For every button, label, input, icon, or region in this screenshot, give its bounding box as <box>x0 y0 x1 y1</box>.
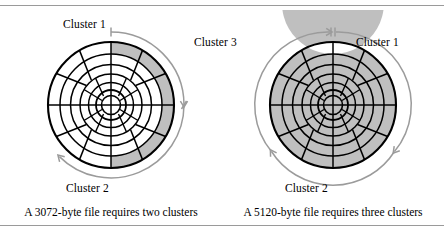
cluster-label-bottom-right-diagram: Cluster 2 <box>285 182 328 194</box>
cluster-label-bottom-left-diagram: Cluster 2 <box>66 182 109 194</box>
diagram-left: Cluster 1 Cluster 2 A 3072-byte file req… <box>0 10 222 222</box>
caption-left: A 3072-byte file requires two clusters <box>0 206 222 218</box>
figure-canvas: Cluster 1 Cluster 2 A 3072-byte file req… <box>0 0 444 234</box>
top-divider-rule <box>0 5 444 6</box>
cluster-label-top-right-right-diagram: Cluster 1 <box>356 36 399 48</box>
caption-right: A 5120-byte file requires three clusters <box>222 206 444 218</box>
disk-platter-left <box>0 10 222 210</box>
diagram-right: Cluster 3 Cluster 1 Cluster 2 A 5120-byt… <box>222 10 444 222</box>
disk-platter-right <box>222 10 444 210</box>
cluster-label-top-left-right-diagram: Cluster 3 <box>194 36 237 48</box>
cluster-label-top-left-diagram: Cluster 1 <box>63 18 106 30</box>
bottom-divider-rule <box>0 225 444 226</box>
